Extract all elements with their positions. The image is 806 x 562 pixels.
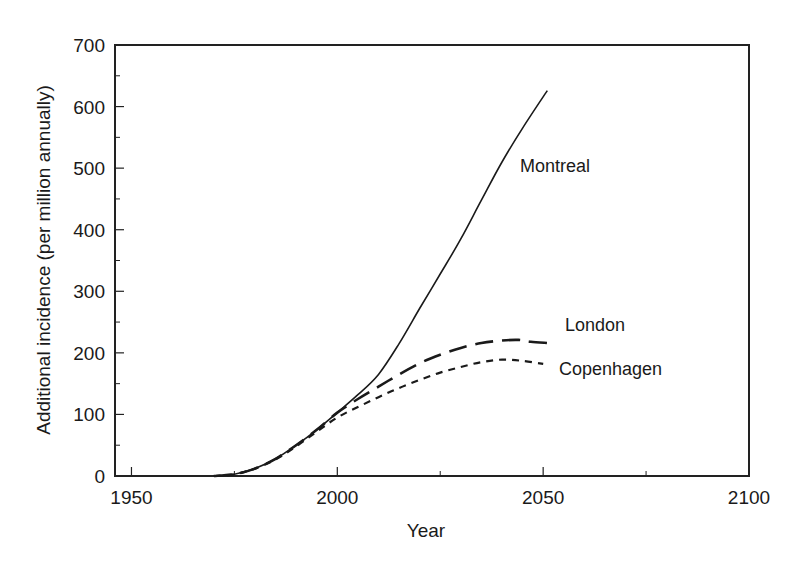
y-tick-label: 700 [73, 35, 105, 56]
series-labels: MontrealLondonCopenhagen [520, 156, 662, 379]
x-tick-label: 2000 [316, 487, 358, 508]
series-line-copenhagen [214, 360, 543, 476]
y-tick-label: 300 [73, 281, 105, 302]
x-tick-label: 2100 [728, 487, 770, 508]
line-chart: 19502000205021000100200300400500600700 M… [0, 0, 806, 562]
y-tick-label: 100 [73, 404, 105, 425]
y-tick-label: 500 [73, 158, 105, 179]
y-tick-label: 200 [73, 343, 105, 364]
x-tick-label: 1950 [110, 487, 152, 508]
series-line-london [214, 340, 548, 476]
series-label-copenhagen: Copenhagen [559, 359, 662, 379]
x-tick-label: 2050 [522, 487, 564, 508]
y-tick-label: 0 [94, 466, 105, 487]
series-line-montreal [214, 91, 548, 476]
tick-labels: 19502000205021000100200300400500600700 [73, 35, 770, 508]
series-label-london: London [565, 315, 625, 335]
x-axis-title: Year [407, 520, 446, 541]
plot-frame [115, 45, 749, 476]
y-tick-label: 400 [73, 220, 105, 241]
axis-ticks [115, 76, 646, 476]
y-axis-title: Additional incidence (per million annual… [33, 85, 54, 435]
series-label-montreal: Montreal [520, 156, 590, 176]
series-lines [214, 91, 548, 476]
y-tick-label: 600 [73, 97, 105, 118]
